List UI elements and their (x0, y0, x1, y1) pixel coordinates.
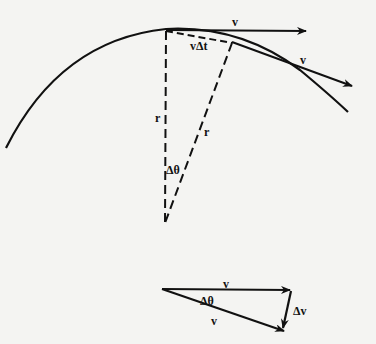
label-velocity-top: v (232, 16, 238, 28)
label-arc-displacement: vΔt (190, 40, 208, 52)
circular-path-arc (6, 29, 348, 148)
radius-vertical (165, 31, 166, 223)
label-triangle-velocity-top: v (223, 278, 229, 290)
triangle-velocity-bottom (162, 289, 284, 331)
label-triangle-delta-v: Δv (293, 305, 307, 317)
label-angle-center: Δθ (166, 164, 180, 176)
circular-motion-diagram: v v vΔt r r Δθ v Δθ v Δv (0, 0, 376, 344)
label-velocity-tangent: v (300, 54, 306, 66)
diagram-canvas (0, 0, 376, 344)
label-triangle-velocity-bottom: v (211, 315, 217, 327)
label-radius-left: r (155, 112, 160, 124)
label-radius-right: r (204, 126, 209, 138)
radius-slanted (165, 43, 232, 223)
triangle-delta-v (283, 291, 291, 328)
velocity-vector-tangent (232, 42, 352, 86)
velocity-vector-top (166, 30, 306, 31)
label-triangle-angle: Δθ (200, 295, 214, 307)
